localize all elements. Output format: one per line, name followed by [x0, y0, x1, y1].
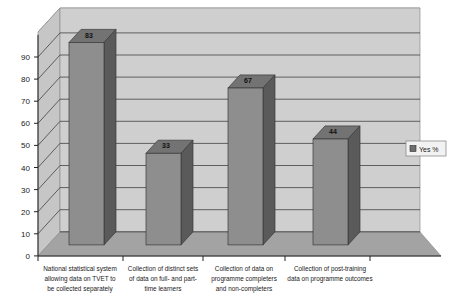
x-axis-label-0-line-0: National statistical system — [43, 265, 117, 273]
x-axis-label-1-line-1: of data on full- and part- — [129, 275, 197, 283]
x-axis — [38, 256, 441, 261]
bar-front-face-0 — [69, 43, 104, 245]
y-tick-label-60: 60 — [21, 119, 30, 128]
bar-group-0[interactable]: 83 — [69, 29, 116, 245]
x-axis-category-labels: National statistical system allowing dat… — [43, 265, 372, 293]
bar-value-label-3: 44 — [329, 128, 337, 135]
bar-group-1[interactable]: 33 — [146, 140, 193, 245]
y-tick-label-50: 50 — [21, 141, 30, 150]
y-tick-label-40: 40 — [21, 164, 30, 173]
y-tick-label-80: 80 — [21, 75, 30, 84]
legend-label-yes: Yes % — [419, 146, 439, 153]
x-axis-label-2: Collection of data on programme complete… — [211, 265, 277, 293]
bar-side-face-1 — [181, 140, 193, 245]
x-axis-label-0-line-2: be collected separately — [47, 285, 113, 293]
x-axis-label-1-line-2: time learners — [145, 285, 182, 292]
x-axis-label-2-line-0: Collection of data on — [215, 265, 274, 272]
bar-value-label-0: 83 — [85, 32, 93, 39]
x-axis-label-0: National statistical system allowing dat… — [43, 265, 117, 293]
x-axis-label-3: Collection of post-training data on prog… — [287, 265, 372, 283]
x-axis-label-1-line-0: Collection of distinct sets — [128, 265, 198, 272]
y-tick-label-70: 70 — [21, 97, 30, 106]
bar-value-label-1: 33 — [162, 142, 170, 149]
chart-container: 90 80 70 60 50 40 30 20 10 0 83 33 — [0, 0, 450, 304]
x-axis-label-3-line-1: data on programme outcomes — [287, 275, 372, 283]
bar-side-face-2 — [263, 75, 275, 245]
bar-chart-3d: 90 80 70 60 50 40 30 20 10 0 83 33 — [0, 0, 450, 304]
bar-front-face-3 — [313, 139, 348, 245]
x-axis-label-3-line-0: Collection of post-training — [294, 265, 367, 273]
y-tick-label-10: 10 — [21, 230, 30, 239]
x-axis-label-1: Collection of distinct sets of data on f… — [128, 265, 198, 292]
y-tick-label-20: 20 — [21, 208, 30, 217]
bar-value-label-2: 67 — [244, 77, 252, 84]
bar-front-face-2 — [228, 88, 263, 245]
legend[interactable]: Yes % — [406, 141, 446, 156]
x-axis-label-2-line-2: and non-completers — [216, 285, 272, 293]
x-axis-label-0-line-1: allowing data on TVET to — [44, 275, 116, 283]
bar-group-3[interactable]: 44 — [313, 126, 360, 245]
legend-swatch-yes — [410, 146, 416, 152]
bar-side-face-3 — [348, 126, 360, 245]
bar-side-face-0 — [104, 29, 116, 245]
bar-front-face-1 — [146, 153, 181, 245]
y-tick-label-0: 0 — [26, 252, 31, 261]
bar-group-2[interactable]: 67 — [228, 75, 275, 245]
y-axis: 90 80 70 60 50 40 30 20 10 0 — [21, 35, 38, 261]
y-tick-label-90: 90 — [21, 53, 30, 62]
y-tick-label-30: 30 — [21, 186, 30, 195]
x-axis-label-2-line-1: programme completers — [211, 275, 277, 283]
